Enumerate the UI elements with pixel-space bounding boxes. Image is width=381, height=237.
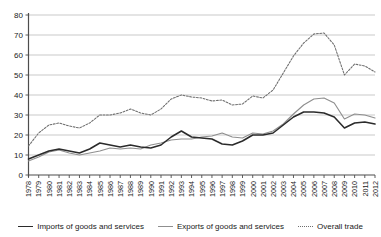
x-tick-label: 2005 xyxy=(299,181,308,197)
x-tick-label: 2006 xyxy=(310,181,319,197)
x-tick-label: 1996 xyxy=(208,181,217,197)
y-tick-label: 80 xyxy=(14,11,23,20)
series-line-overall xyxy=(29,33,376,146)
x-tick-label: 1997 xyxy=(218,181,227,197)
x-tick-label: 1988 xyxy=(126,181,135,197)
y-tick-label: 40 xyxy=(14,91,23,100)
y-tick-label: 30 xyxy=(14,111,23,120)
x-tick-label: 2004 xyxy=(289,181,298,197)
x-tick-label: 1991 xyxy=(157,181,166,197)
x-tick-label: 2009 xyxy=(340,181,349,197)
x-tick-label: 1992 xyxy=(167,181,176,197)
legend-item-exports: Exports of goods and services xyxy=(158,223,284,231)
y-axis-ticks: 01020304050607080 xyxy=(14,11,28,180)
y-tick-label: 0 xyxy=(19,171,24,180)
solid-dark-line-icon xyxy=(18,226,33,227)
x-tick-label: 1987 xyxy=(116,181,125,197)
plot-area: 01020304050607080 1978197919801981198219… xyxy=(0,0,381,237)
data-series xyxy=(29,33,376,161)
x-tick-label: 1998 xyxy=(228,181,237,197)
line-chart: 01020304050607080 1978197919801981198219… xyxy=(0,0,381,237)
legend-label-overall: Overall trade xyxy=(317,223,363,231)
solid-gray-line-icon xyxy=(158,226,173,227)
y-tick-label: 10 xyxy=(14,151,23,160)
x-tick-label: 1984 xyxy=(85,181,94,197)
x-tick-label: 1985 xyxy=(96,181,105,197)
x-tick-label: 2002 xyxy=(269,181,278,197)
series-line-exports xyxy=(29,98,376,161)
x-tick-label: 2011 xyxy=(361,181,370,196)
x-tick-label: 1986 xyxy=(106,181,115,197)
legend-item-overall: Overall trade xyxy=(298,223,363,231)
legend-label-exports: Exports of goods and services xyxy=(177,223,284,231)
x-tick-label: 1995 xyxy=(198,181,207,197)
y-tick-label: 60 xyxy=(14,51,23,60)
x-tick-label: 1990 xyxy=(147,181,156,197)
gridlines xyxy=(29,15,376,155)
legend-label-imports: Imports of goods and services xyxy=(37,223,144,231)
x-tick-label: 1999 xyxy=(238,181,247,197)
x-tick-label: 1981 xyxy=(55,181,64,197)
x-tick-label: 2012 xyxy=(371,181,380,197)
x-tick-label: 1982 xyxy=(65,181,74,197)
x-tick-label: 1993 xyxy=(177,181,186,197)
series-line-imports xyxy=(29,112,376,159)
legend-item-imports: Imports of goods and services xyxy=(18,223,144,231)
x-tick-label: 1979 xyxy=(34,181,43,197)
x-tick-label: 2003 xyxy=(279,181,288,197)
x-tick-label: 1980 xyxy=(45,181,54,197)
x-tick-label: 1983 xyxy=(75,181,84,197)
x-tick-label: 2000 xyxy=(249,181,258,197)
chart-legend: Imports of goods and services Exports of… xyxy=(0,216,381,237)
x-tick-label: 1989 xyxy=(136,181,145,197)
y-tick-label: 50 xyxy=(14,71,23,80)
x-tick-label: 1994 xyxy=(187,181,196,197)
y-tick-label: 70 xyxy=(14,31,23,40)
x-tick-label: 2007 xyxy=(320,181,329,197)
y-tick-label: 20 xyxy=(14,131,23,140)
x-tick-label: 2008 xyxy=(330,181,339,197)
x-tick-label: 2001 xyxy=(259,181,268,197)
x-axis-labels: 1978197919801981198219831984198519861987… xyxy=(24,181,380,197)
x-tick-label: 1978 xyxy=(24,181,33,197)
dotted-line-icon xyxy=(298,226,313,227)
x-tick-label: 2010 xyxy=(350,181,359,197)
